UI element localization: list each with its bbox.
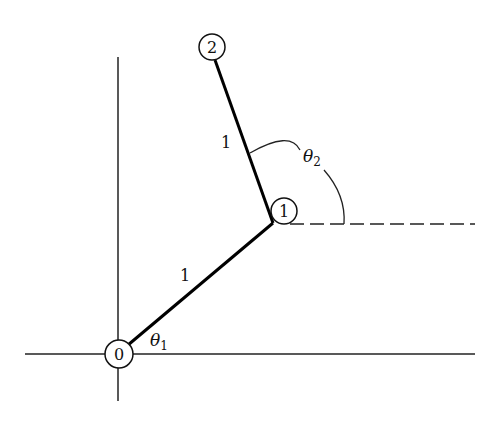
theta2-arc bbox=[250, 141, 300, 153]
link-2-length-label: 1 bbox=[221, 133, 231, 152]
joint-0: 0 bbox=[105, 340, 133, 368]
link-1 bbox=[128, 223, 273, 345]
link-1-length-label: 1 bbox=[180, 266, 190, 285]
joint-2-label: 2 bbox=[207, 38, 217, 57]
theta2-label: θ2 bbox=[303, 146, 321, 169]
theta1-label: θ1 bbox=[150, 330, 168, 353]
joint-1-label: 1 bbox=[279, 202, 289, 221]
joint-1: 1 bbox=[271, 198, 297, 224]
joint-2: 2 bbox=[199, 34, 225, 60]
joint-0-label: 0 bbox=[114, 345, 124, 364]
theta2-arc-lower bbox=[324, 170, 344, 224]
robot-arm-diagram: 0 1 2 1 1 θ1 θ2 bbox=[0, 0, 496, 424]
